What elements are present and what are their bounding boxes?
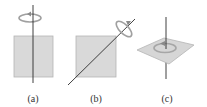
rotation-arrow-icon-b — [114, 19, 135, 40]
panel-label-c: (c) — [161, 94, 172, 104]
panel-label-a: (a) — [27, 94, 38, 104]
figure-canvas — [0, 0, 207, 107]
panel-c — [137, 17, 194, 79]
panel-label-b: (b) — [90, 94, 102, 104]
square-plate-a — [14, 36, 53, 77]
panel-a — [14, 5, 53, 83]
panel-b — [68, 19, 135, 85]
square-plate-c — [137, 38, 194, 64]
rotation-arrowhead-icon-a — [27, 12, 31, 17]
